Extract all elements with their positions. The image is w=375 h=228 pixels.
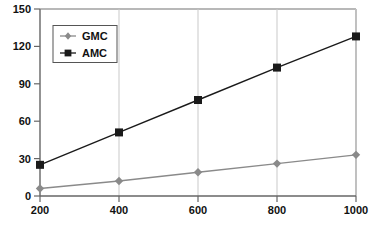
x-axis-label-400: 400 (110, 204, 128, 216)
data-point-amc-200 (36, 161, 44, 169)
line-chart: 150 120 90 60 30 0 200 400 600 800 1000 (0, 0, 375, 228)
y-axis-label-60: 60 (19, 115, 31, 127)
y-axis-label-90: 90 (19, 78, 31, 90)
data-point-amc-400 (115, 128, 123, 136)
chart-container: 150 120 90 60 30 0 200 400 600 800 1000 (0, 0, 375, 228)
legend-label-gmc: GMC (82, 30, 108, 42)
x-axis-label-600: 600 (189, 204, 207, 216)
x-axis-label-200: 200 (31, 204, 49, 216)
data-point-gmc-600 (194, 168, 202, 176)
y-axis-label-30: 30 (19, 153, 31, 165)
data-point-gmc-400 (115, 177, 123, 185)
x-axis-label-1000: 1000 (344, 204, 368, 216)
y-axis-label-150: 150 (13, 3, 31, 15)
y-axis-label-0: 0 (25, 190, 31, 202)
data-point-amc-600 (194, 96, 202, 104)
data-point-gmc-200 (36, 184, 44, 192)
x-axis-label-800: 800 (268, 204, 286, 216)
legend-label-amc: AMC (82, 47, 107, 59)
data-point-amc-1000 (352, 32, 360, 40)
y-axis-label-120: 120 (13, 40, 31, 52)
data-point-gmc-800 (273, 159, 281, 167)
square-marker-icon (65, 50, 72, 57)
data-point-gmc-1000 (352, 151, 360, 159)
data-point-amc-800 (273, 64, 281, 72)
chart-legend[interactable]: GMC AMC (53, 26, 117, 63)
